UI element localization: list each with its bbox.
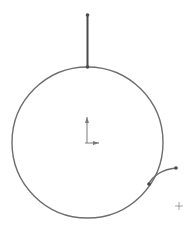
origin-x-arrow-icon xyxy=(93,141,99,145)
line-circle-junction[interactable] xyxy=(86,65,90,69)
arc-start-point[interactable] xyxy=(147,182,151,186)
sketch-canvas[interactable] xyxy=(0,0,190,231)
line-top-endpoint[interactable] xyxy=(86,13,90,17)
arc-end-point[interactable] xyxy=(174,166,178,170)
origin-y-arrow-icon xyxy=(85,117,89,123)
